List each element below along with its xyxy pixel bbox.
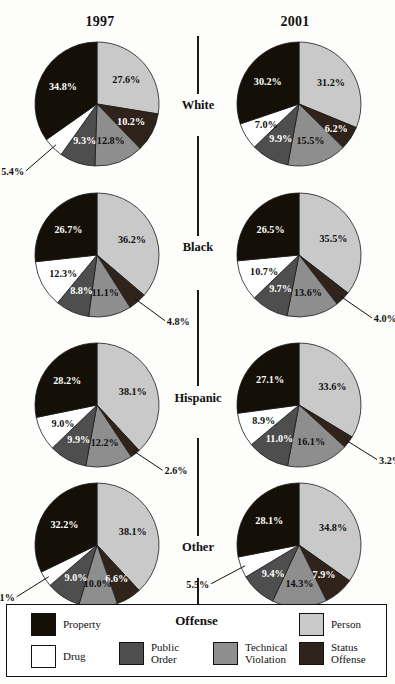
slice-value-property: 26.5%: [257, 224, 285, 235]
slice-value-technical_violation: 10.0%: [84, 578, 112, 589]
slice-value-drug: 4.1%: [0, 592, 15, 603]
legend-label-status-offense: Status Offense: [331, 642, 366, 665]
slice-value-status_offense: 10.2%: [117, 116, 145, 127]
column-divider-2: [197, 136, 199, 236]
slice-value-drug: 10.7%: [250, 266, 278, 277]
pie-svg: 27.6%10.2%12.8%9.3%5.4%34.8%: [22, 32, 172, 182]
slice-value-property: 30.2%: [254, 76, 282, 87]
column-divider-4: [197, 438, 199, 536]
legend-item-technical-violation: Technical Violation: [213, 642, 288, 665]
pie-other-2001: 34.8%7.9%14.3%9.4%5.5%28.1%: [224, 473, 374, 623]
slice-value-status_offense: 4.0%: [374, 313, 395, 324]
pie-white-1997: 27.6%10.2%12.8%9.3%5.4%34.8%: [22, 32, 172, 182]
pie-svg: 36.2%4.8%11.1%8.8%12.3%26.7%: [22, 183, 172, 333]
slice-leader-line: [135, 299, 165, 321]
pie-svg: 33.6%3.2%16.1%11.0%8.9%27.1%: [224, 333, 374, 483]
column-header-2001: 2001: [235, 14, 355, 30]
slice-leader-line: [211, 566, 245, 584]
slice-value-person: 34.8%: [319, 522, 347, 533]
pie-hispanic-1997: 38.1%2.6%12.2%9.9%9.0%28.2%: [22, 333, 172, 483]
legend-swatch-property: [31, 613, 56, 636]
pie-black-2001: 35.5%4.0%13.6%9.7%10.7%26.5%: [224, 183, 374, 333]
legend-label-public-order: Public Order: [151, 642, 179, 665]
legend-swatch-public-order: [119, 642, 144, 665]
legend-label-drug: Drug: [63, 651, 86, 663]
slice-value-status_offense: 7.9%: [313, 569, 336, 580]
slice-leader-line: [345, 440, 377, 460]
legend: Offense Property Person Drug Public Orde…: [6, 604, 387, 677]
slice-value-person: 27.6%: [112, 74, 140, 85]
legend-item-drug: Drug: [31, 645, 86, 668]
pie-svg: 38.1%2.6%12.2%9.9%9.0%28.2%: [22, 333, 172, 483]
slice-value-technical_violation: 12.8%: [97, 135, 125, 146]
slice-value-drug: 12.3%: [49, 268, 77, 279]
slice-value-technical_violation: 15.5%: [296, 135, 324, 146]
slice-value-public_order: 11.0%: [266, 433, 293, 444]
pie-svg: 34.8%7.9%14.3%9.4%5.5%28.1%: [224, 473, 374, 623]
legend-label-technical-violation: Technical Violation: [245, 642, 288, 665]
column-divider-3: [197, 290, 199, 386]
legend-swatch-technical-violation: [213, 642, 238, 665]
slice-leader-line: [17, 577, 49, 597]
slice-value-person: 36.2%: [118, 234, 146, 245]
slice-value-property: 26.7%: [54, 224, 82, 235]
pie-svg: 35.5%4.0%13.6%9.7%10.7%26.5%: [224, 183, 374, 333]
slice-value-status_offense: 4.8%: [167, 316, 190, 327]
legend-item-person: Person: [299, 613, 361, 636]
pie-svg: 38.1%6.6%10.0%9.0%4.1%32.2%: [22, 473, 172, 623]
slice-leader-line: [340, 296, 372, 318]
slice-value-public_order: 9.9%: [67, 434, 90, 445]
slice-value-property: 32.2%: [50, 519, 78, 530]
slice-value-public_order: 9.4%: [262, 568, 285, 579]
slice-value-technical_violation: 12.2%: [91, 437, 119, 448]
legend-item-public-order: Public Order: [119, 642, 179, 665]
pie-other-1997: 38.1%6.6%10.0%9.0%4.1%32.2%: [22, 473, 172, 623]
slice-leader-line: [133, 450, 163, 470]
legend-label-property: Property: [63, 619, 101, 631]
legend-item-property: Property: [31, 613, 101, 636]
slice-value-property: 28.1%: [255, 515, 283, 526]
legend-swatch-status-offense: [299, 642, 324, 665]
slice-value-person: 38.1%: [119, 526, 147, 537]
slice-value-technical_violation: 14.3%: [285, 578, 313, 589]
slice-value-drug: 7.0%: [255, 119, 278, 130]
slice-value-public_order: 9.9%: [269, 133, 292, 144]
slice-value-person: 33.6%: [318, 381, 346, 392]
slice-value-public_order: 9.3%: [73, 135, 96, 146]
slice-value-drug: 5.5%: [186, 579, 209, 590]
slice-value-person: 31.2%: [317, 77, 345, 88]
slice-value-person: 35.5%: [319, 233, 347, 244]
legend-swatch-person: [299, 613, 324, 636]
legend-swatch-drug: [31, 645, 56, 668]
pie-svg: 31.2%6.2%15.5%9.9%7.0%30.2%: [224, 32, 374, 182]
figure-root: 1997 2001 White Black Hispanic Other 27.…: [0, 0, 395, 684]
slice-value-public_order: 9.7%: [269, 283, 292, 294]
pie-black-1997: 36.2%4.8%11.1%8.8%12.3%26.7%: [22, 183, 172, 333]
slice-value-public_order: 9.0%: [65, 572, 88, 583]
pie-white-2001: 31.2%6.2%15.5%9.9%7.0%30.2%: [224, 32, 374, 182]
slice-value-drug: 9.0%: [52, 418, 75, 429]
slice-value-status_offense: 3.2%: [379, 455, 395, 466]
slice-value-technical_violation: 13.6%: [294, 287, 322, 298]
slice-value-drug: 8.9%: [252, 415, 275, 426]
slice-value-person: 38.1%: [119, 386, 147, 397]
slice-value-property: 28.2%: [53, 375, 81, 386]
slice-value-property: 27.1%: [256, 374, 284, 385]
slice-leader-line: [26, 145, 56, 171]
column-header-1997: 1997: [40, 14, 160, 30]
slice-value-technical_violation: 11.1%: [91, 287, 118, 298]
legend-item-status-offense: Status Offense: [299, 642, 366, 665]
slice-value-drug: 5.4%: [1, 166, 24, 177]
slice-value-property: 34.8%: [49, 81, 77, 92]
pie-hispanic-2001: 33.6%3.2%16.1%11.0%8.9%27.1%: [224, 333, 374, 483]
slice-value-status_offense: 6.2%: [325, 123, 348, 134]
legend-label-person: Person: [331, 619, 361, 631]
slice-value-technical_violation: 16.1%: [297, 436, 325, 447]
slice-value-public_order: 8.8%: [70, 285, 93, 296]
column-divider-1: [197, 36, 199, 94]
